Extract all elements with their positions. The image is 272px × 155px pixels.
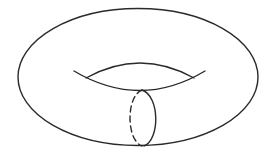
outer-boundary <box>18 9 258 146</box>
meridian-circle-front <box>142 90 156 146</box>
hole-upper-arc <box>86 63 194 78</box>
meridian-circle-back <box>130 90 142 146</box>
torus-diagram <box>0 0 272 155</box>
